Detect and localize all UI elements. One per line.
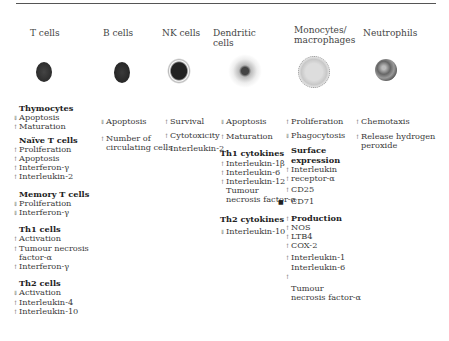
arrow-up-icon: ↑ bbox=[285, 223, 290, 232]
arrow-up-icon: ↑ bbox=[220, 132, 225, 141]
arrow-up-icon: ↑ bbox=[285, 214, 290, 223]
arrow-up-icon: ↑ bbox=[220, 168, 225, 177]
column-title-b-cells: B cells bbox=[103, 28, 133, 38]
arrow-down-icon: ⇓ bbox=[220, 117, 225, 126]
monocyte-cell-image bbox=[298, 56, 330, 88]
neutrophils-list: ↑Chemotaxis ↑Release hydrogen peroxide bbox=[355, 117, 435, 151]
arrow-down-icon: ⇓ bbox=[220, 227, 225, 236]
arrow-up-icon: ↑ bbox=[164, 117, 169, 126]
arrow-down-icon: ⇓ bbox=[285, 131, 290, 140]
arrow-up-icon: ↑ bbox=[13, 298, 18, 307]
list-item: Maturation bbox=[226, 131, 273, 141]
arrow-up-icon: ↑ bbox=[13, 163, 18, 172]
dendritic-cell-image bbox=[228, 54, 262, 88]
list-item: Proliferation bbox=[291, 116, 343, 126]
list-item: circulating cells bbox=[106, 142, 172, 152]
list-item: Interleukin-10 bbox=[19, 306, 78, 316]
list-item: Apoptosis bbox=[106, 116, 147, 126]
b-cells-list: ⇓Apoptosis ↑Number of circulating cells bbox=[100, 117, 172, 153]
list-item: Apoptosis bbox=[226, 116, 267, 126]
arrow-down-icon: ⇓ bbox=[13, 288, 18, 297]
arrow-up-icon: ↑ bbox=[285, 253, 290, 262]
arrow-down-icon: ⇓ bbox=[100, 117, 105, 126]
arrow-up-icon: ↑ bbox=[13, 154, 18, 163]
column-title-nk-cells: NK cells bbox=[162, 28, 200, 38]
list-item: Chemotaxis bbox=[361, 116, 410, 126]
title-line: macrophages bbox=[294, 35, 355, 45]
arrow-down-icon: ⇓ bbox=[13, 208, 18, 217]
title-line: Monocytes/ bbox=[294, 25, 355, 35]
list-item: Interleukin-2 bbox=[170, 143, 224, 153]
arrow-up-icon: ↑ bbox=[285, 241, 290, 250]
arrow-up-icon: ↑ bbox=[13, 145, 18, 154]
t-cell-image bbox=[36, 62, 52, 82]
title-line: Dendritic bbox=[213, 28, 256, 38]
arrow-up-icon: ↑ bbox=[13, 234, 18, 243]
arrow-down-icon: ⇓ bbox=[13, 199, 18, 208]
b-cell-image bbox=[114, 62, 130, 83]
arrow-up-icon: ↑ bbox=[285, 174, 290, 183]
bullet-marker: ■ bbox=[278, 198, 284, 205]
list-item: Survival bbox=[170, 116, 204, 126]
list-item: CD25 bbox=[291, 184, 314, 194]
column-title-t-cells: T cells bbox=[30, 28, 60, 38]
arrow-up-icon: ↑ bbox=[13, 307, 18, 316]
arrow-up-icon: ↑ bbox=[220, 177, 225, 186]
arrow-up-icon: ↑ bbox=[100, 134, 105, 143]
list-item: Cytotoxicity bbox=[170, 130, 220, 140]
arrow-up-icon: ↑ bbox=[220, 159, 225, 168]
title-line: cells bbox=[213, 38, 256, 48]
column-title-monocytes-macrophages: Monocytes/ macrophages bbox=[294, 25, 355, 45]
arrow-up-icon: ↑ bbox=[164, 131, 169, 140]
nk-cells-list: ↑Survival ↑Cytotoxicity ↑Interleukin-2 bbox=[164, 117, 224, 154]
list-item: Interferon-γ bbox=[19, 261, 69, 271]
arrow-up-icon: ↑ bbox=[164, 144, 169, 153]
list-item: COX-2 bbox=[291, 240, 317, 250]
arrow-up-icon: ↑ bbox=[355, 117, 360, 126]
nk-cell-image bbox=[167, 58, 191, 84]
list-item: Phagocytosis bbox=[291, 130, 345, 140]
column-title-dendritic-cells: Dendritic cells bbox=[213, 28, 256, 48]
column-title-neutrophils: Neutrophils bbox=[363, 28, 417, 38]
top-rule bbox=[16, 3, 436, 4]
arrow-up-icon: ↑ bbox=[285, 165, 290, 174]
monocytes-list: ↑Proliferation ⇓Phagocytosis Surface exp… bbox=[285, 117, 361, 302]
list-item: Interferon-γ bbox=[19, 207, 69, 217]
list-item: Interleukin-2 bbox=[19, 171, 73, 181]
arrow-up-icon: ↑ bbox=[13, 262, 18, 271]
arrow-up-icon: ↑ bbox=[285, 117, 290, 126]
list-item: necrosis factor-α bbox=[291, 292, 361, 302]
neutrophil-cell-image bbox=[375, 59, 397, 81]
arrow-up-icon: ↑ bbox=[13, 244, 18, 253]
list-item: Interleukin-6 bbox=[291, 262, 345, 272]
arrow-up-icon: ↑ bbox=[13, 122, 18, 131]
list-item: Interleukin-10 bbox=[226, 226, 285, 236]
arrow-up-icon: ↑ bbox=[355, 132, 360, 141]
arrow-up-icon: ↑ bbox=[13, 172, 18, 181]
arrow-down-icon: ⇓ bbox=[13, 113, 18, 122]
list-item: Maturation bbox=[19, 121, 66, 131]
arrow-up-icon: ↑ bbox=[285, 185, 290, 194]
list-item: receptor-α bbox=[291, 173, 335, 183]
arrow-up-icon: ↑ bbox=[285, 272, 290, 281]
arrow-up-icon: ↑ bbox=[285, 232, 290, 241]
list-item: CD71 bbox=[291, 196, 314, 206]
t-cells-list: Thymocytes ⇓Apoptosis ↑Maturation Naïve … bbox=[13, 104, 89, 316]
list-item: peroxide bbox=[361, 140, 397, 150]
